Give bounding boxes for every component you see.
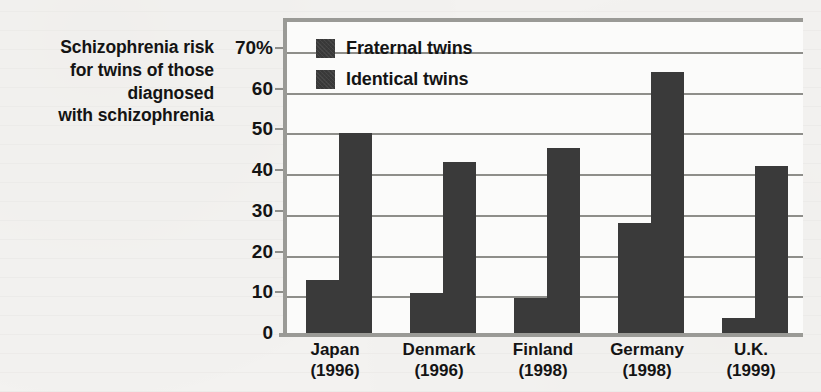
x-axis-label-year: (1998) [610, 361, 684, 382]
bar-uk-identical [755, 166, 788, 337]
x-axis-label-germany: Germany(1998) [610, 340, 684, 381]
x-axis-label-year: (1996) [310, 361, 359, 382]
x-axis-label-year: (1998) [513, 361, 573, 382]
x-axis-label-uk: U.K.(1999) [726, 340, 775, 381]
x-axis-label-japan: Japan(1996) [310, 340, 359, 381]
chart-legend: Fraternal twins Identical twins [316, 38, 473, 90]
x-axis-label-country: Japan [310, 340, 359, 361]
legend-label-fraternal: Fraternal twins [346, 38, 473, 59]
x-axis-label-year: (1996) [403, 361, 476, 382]
x-axis-label-finland: Finland(1998) [513, 340, 573, 381]
bar-denmark-identical [443, 162, 476, 337]
chart-figure: Schizophrenia risk for twins of those di… [0, 0, 821, 392]
legend-item-identical: Identical twins [316, 69, 473, 90]
bar-denmark-fraternal [410, 293, 443, 337]
legend-swatch-fraternal-icon [316, 39, 335, 58]
x-axis-baseline [279, 333, 803, 337]
legend-item-fraternal: Fraternal twins [316, 38, 473, 59]
gridline-60 [287, 93, 803, 95]
x-axis-label-denmark: Denmark(1996) [403, 340, 476, 381]
bar-germany-identical [651, 72, 684, 337]
x-axis-label-country: U.K. [726, 340, 775, 361]
x-axis-label-year: (1999) [726, 361, 775, 382]
x-axis-labels: Japan(1996)Denmark(1996)Finland(1998)Ger… [283, 340, 803, 392]
bar-finland-fraternal [514, 298, 547, 337]
legend-label-identical: Identical twins [346, 69, 469, 90]
bar-japan-identical [339, 133, 372, 337]
x-axis-label-country: Finland [513, 340, 573, 361]
bar-germany-fraternal [618, 223, 651, 337]
x-axis-label-country: Germany [610, 340, 684, 361]
bar-japan-fraternal [306, 280, 339, 337]
bar-finland-identical [547, 148, 580, 337]
x-axis-label-country: Denmark [403, 340, 476, 361]
legend-swatch-identical-icon [316, 70, 335, 89]
